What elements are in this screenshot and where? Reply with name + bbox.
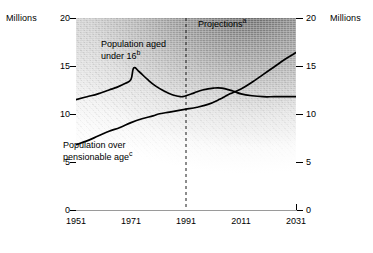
y-axis-unit-right: Millions bbox=[330, 13, 361, 23]
annotation-pensionable-footnote: c bbox=[129, 150, 133, 157]
x-tick-label-2011: 2011 bbox=[221, 216, 261, 226]
y-axis-unit-left: Millions bbox=[6, 13, 37, 23]
annotation-under-16-footnote: b bbox=[137, 49, 141, 56]
y-tick-label-left-0: 0 bbox=[48, 205, 70, 215]
x-tick-label-2031: 2031 bbox=[276, 216, 316, 226]
x-tick-label-1971: 1971 bbox=[111, 216, 151, 226]
annotation-pensionable-line1: Population over bbox=[63, 140, 126, 150]
y-tick-mark-right-0 bbox=[296, 210, 303, 211]
y-tick-mark-right-5 bbox=[296, 162, 303, 163]
y-tick-label-right-20: 20 bbox=[306, 13, 328, 23]
annotation-under-16-line2: under 16 bbox=[101, 51, 137, 61]
y-tick-label-right-10: 10 bbox=[306, 109, 328, 119]
y-tick-label-left-15: 15 bbox=[48, 61, 70, 71]
y-tick-label-right-15: 15 bbox=[306, 61, 328, 71]
annotation-projections-text: Projections bbox=[198, 19, 243, 29]
y-tick-label-left-20: 20 bbox=[48, 13, 70, 23]
chart-figure: Millions Millions 20 15 10 5 0 20 15 10 … bbox=[0, 0, 373, 253]
y-tick-label-right-5: 5 bbox=[306, 157, 328, 167]
annotation-under-16-line1: Population aged bbox=[101, 39, 166, 49]
y-tick-mark-right-20 bbox=[296, 18, 303, 19]
annotation-pensionable-line2: pensionable age bbox=[63, 152, 129, 162]
annotation-projections: Projectionsa bbox=[198, 18, 246, 30]
x-tick-label-1991: 1991 bbox=[166, 216, 206, 226]
annotation-projections-footnote: a bbox=[243, 17, 247, 24]
annotation-under-16: Population aged under 16b bbox=[101, 38, 166, 62]
y-tick-mark-right-10 bbox=[296, 114, 303, 115]
y-tick-label-left-10: 10 bbox=[48, 109, 70, 119]
annotation-pensionable-age: Population over pensionable agec bbox=[63, 139, 133, 163]
x-tick-mark-2031 bbox=[296, 205, 297, 210]
x-tick-label-1951: 1951 bbox=[56, 216, 96, 226]
y-tick-label-right-0: 0 bbox=[306, 205, 328, 215]
y-tick-mark-right-15 bbox=[296, 66, 303, 67]
x-axis-line bbox=[76, 210, 297, 211]
